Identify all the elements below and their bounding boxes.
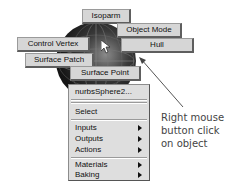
annotation-line-2: button click xyxy=(161,124,224,137)
annotation-line-3: on object xyxy=(161,137,224,150)
annotation-arrow-icon xyxy=(0,0,227,183)
annotation-text: Right mouse button click on object xyxy=(161,111,224,150)
annotation-line-1: Right mouse xyxy=(161,111,224,124)
